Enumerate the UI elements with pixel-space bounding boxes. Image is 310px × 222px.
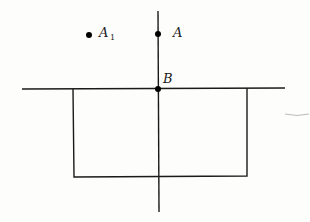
- label-a: A: [172, 25, 182, 40]
- label-a1: A: [98, 25, 108, 40]
- rectangle: [73, 88, 247, 177]
- vertical-line: [158, 11, 159, 212]
- diagram-canvas: A 1 A B: [0, 0, 310, 222]
- label-a1-subscript: 1: [110, 33, 115, 42]
- margin-mark: [285, 114, 309, 116]
- point-b: [155, 86, 161, 92]
- horizontal-line: [22, 88, 285, 89]
- label-b: B: [162, 71, 173, 86]
- point-a: [155, 31, 161, 37]
- point-a1: [86, 32, 92, 38]
